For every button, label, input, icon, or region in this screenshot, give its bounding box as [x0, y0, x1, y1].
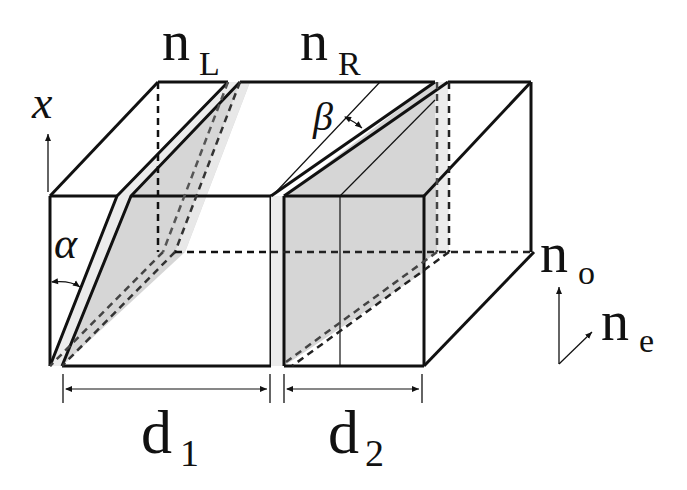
beta-angle-arc [345, 117, 362, 128]
svg-text:n: n [162, 10, 190, 72]
x-axis-label: x [31, 77, 53, 128]
svg-text:L: L [199, 45, 220, 82]
svg-text:d: d [328, 398, 359, 466]
alpha-angle-arc [52, 282, 80, 287]
svg-text:n: n [601, 290, 629, 352]
svg-text:1: 1 [180, 432, 199, 474]
prism-diagram: x α β n L n R n o n e d 1 d [0, 0, 687, 490]
polarization-axes-arrows [559, 287, 592, 364]
beta-label: β [312, 94, 333, 139]
svg-text:n: n [540, 222, 568, 284]
d2-label: d 2 [328, 398, 384, 474]
svg-text:d: d [141, 398, 172, 466]
right-prism [271, 82, 534, 366]
n-L-label: n L [162, 10, 220, 82]
left-interface-shade [62, 82, 250, 366]
svg-text:R: R [338, 45, 361, 82]
svg-text:n: n [300, 10, 328, 72]
n-e-label: n e [601, 290, 654, 359]
n-R-label: n R [300, 10, 361, 82]
n-o-label: n o [540, 222, 595, 291]
svg-text:e: e [639, 322, 654, 359]
right-slab-gap [271, 196, 284, 366]
svg-text:o: o [578, 254, 595, 291]
alpha-label: α [54, 219, 78, 268]
svg-text:2: 2 [365, 432, 384, 474]
d1-label: d 1 [141, 398, 199, 474]
right-interface-shade [284, 196, 424, 366]
